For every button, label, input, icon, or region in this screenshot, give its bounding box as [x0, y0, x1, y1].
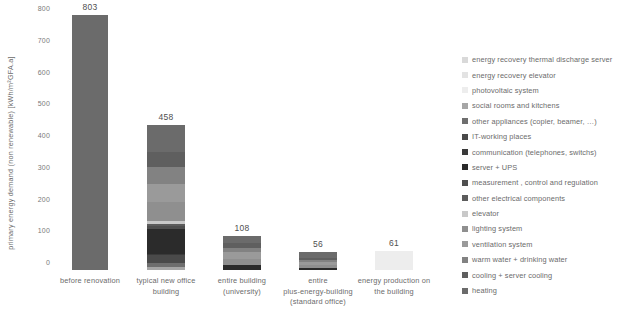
legend-item-label: ventilation system — [472, 240, 533, 249]
x-axis-label-line: before renovation — [52, 276, 128, 287]
bar-group: 61 — [356, 16, 432, 270]
x-axis-label-line: the building — [356, 287, 432, 298]
x-axis-label-line: (university) — [204, 287, 280, 298]
legend-swatch-icon — [462, 103, 468, 109]
legend-item-label: social rooms and kitchens — [472, 101, 560, 110]
bar-group: 108 — [204, 16, 280, 270]
legend-item[interactable]: cooling + server cooling — [462, 267, 634, 282]
bar-group: 56 — [280, 16, 356, 270]
bar-value-label: 803 — [83, 2, 98, 12]
y-axis-tick-label: 0 — [16, 259, 50, 266]
x-axis-label-line: typical new office — [128, 276, 204, 287]
bar-segment — [147, 267, 185, 270]
x-axis-category-label: before renovation — [52, 276, 128, 287]
legend-item[interactable]: heating — [462, 283, 634, 298]
stacked-bar[interactable] — [147, 125, 185, 270]
x-axis-category-label: typical new officebuilding — [128, 276, 204, 297]
bar-value-label: 458 — [159, 112, 174, 122]
legend-swatch-icon — [462, 211, 468, 217]
bar-segment — [223, 252, 261, 259]
y-axis-tick-label: 200 — [16, 195, 50, 202]
legend-item-label: elevator — [472, 209, 499, 218]
bar-segment — [72, 15, 108, 270]
x-axis-label-line: (standard office) — [280, 297, 356, 308]
legend-swatch-icon — [462, 72, 468, 78]
x-axis-labels: before renovationtypical new officebuild… — [52, 276, 432, 322]
y-axis-tick-label: 300 — [16, 163, 50, 170]
legend-swatch-icon — [462, 164, 468, 170]
legend-swatch-icon — [462, 195, 468, 201]
legend-item[interactable]: ventilation system — [462, 237, 634, 252]
legend-item[interactable]: server + UPS — [462, 160, 634, 175]
legend-item[interactable]: lighting system — [462, 221, 634, 236]
y-axis-ticks: 0100200300400500600700800 — [16, 8, 50, 270]
x-axis-label-line: building — [128, 287, 204, 298]
legend-item-label: communication (telephones, switchs) — [472, 148, 597, 157]
stacked-bar[interactable] — [72, 15, 108, 270]
legend-swatch-icon — [462, 149, 468, 155]
legend-item-label: photovoltaic system — [472, 86, 539, 95]
legend-item-label: server + UPS — [472, 163, 517, 172]
bar-segment — [299, 268, 337, 270]
legend-swatch-icon — [462, 57, 468, 63]
legend-swatch-icon — [462, 226, 468, 232]
legend-item-label: IT-working places — [472, 132, 531, 141]
y-axis-tick-label: 700 — [16, 36, 50, 43]
chart-container: primary energy demand (non renewable) [k… — [0, 0, 634, 323]
legend-item-label: warm water + drinking water — [472, 255, 567, 264]
legend-item[interactable]: energy recovery elevator — [462, 67, 634, 82]
stacked-bar[interactable] — [375, 251, 413, 270]
bar-segment — [147, 184, 185, 202]
legend-swatch-icon — [462, 180, 468, 186]
legend-item[interactable]: photovoltaic system — [462, 83, 634, 98]
legend-item-label: energy recovery elevator — [472, 71, 556, 80]
legend-item-label: other appliances (copier, beamer, …) — [472, 117, 597, 126]
y-axis-tick-label: 100 — [16, 227, 50, 234]
bar-group: 458 — [128, 16, 204, 270]
chart-legend: energy recovery thermal discharge server… — [462, 52, 634, 298]
x-axis-category-label: entireplus-energy-building(standard offi… — [280, 276, 356, 308]
bar-segment — [223, 236, 261, 244]
legend-item-label: lighting system — [472, 224, 522, 233]
legend-item[interactable]: social rooms and kitchens — [462, 98, 634, 113]
legend-item-label: measurement , control and regulation — [472, 178, 598, 187]
stacked-bar[interactable] — [299, 252, 337, 270]
legend-item-label: heating — [472, 286, 497, 295]
x-axis-label-line: entire — [280, 276, 356, 287]
bar-segment — [147, 152, 185, 167]
legend-swatch-icon — [462, 118, 468, 124]
y-axis-tick-label: 600 — [16, 68, 50, 75]
bar-segment — [147, 202, 185, 222]
bar-segment — [223, 265, 261, 270]
legend-swatch-icon — [462, 241, 468, 247]
plot-area: 8034581085661 — [52, 16, 432, 270]
bar-value-label: 56 — [313, 239, 323, 249]
legend-swatch-icon — [462, 257, 468, 263]
legend-swatch-icon — [462, 272, 468, 278]
legend-item[interactable]: warm water + drinking water — [462, 252, 634, 267]
legend-item-label: cooling + server cooling — [472, 271, 552, 280]
x-axis-label-line: energy production on — [356, 276, 432, 287]
y-axis-tick-label: 400 — [16, 132, 50, 139]
y-axis-tick-label: 800 — [16, 5, 50, 12]
bar-value-label: 108 — [235, 223, 250, 233]
legend-item-label: energy recovery thermal discharge server — [472, 55, 612, 64]
legend-item[interactable]: IT-working places — [462, 129, 634, 144]
bar-value-label: 61 — [389, 238, 399, 248]
stacked-bar[interactable] — [223, 236, 261, 270]
legend-item[interactable]: energy recovery thermal discharge server — [462, 52, 634, 67]
legend-item-label: other electrical components — [472, 194, 565, 203]
bar-segment — [147, 229, 185, 254]
legend-item[interactable]: other electrical components — [462, 191, 634, 206]
bar-segment — [147, 255, 185, 262]
legend-swatch-icon — [462, 87, 468, 93]
legend-item[interactable]: other appliances (copier, beamer, …) — [462, 114, 634, 129]
legend-item[interactable]: communication (telephones, switchs) — [462, 144, 634, 159]
x-axis-label-line: plus-energy-building — [280, 287, 356, 298]
legend-swatch-icon — [462, 134, 468, 140]
bar-segment — [147, 125, 185, 152]
legend-item[interactable]: elevator — [462, 206, 634, 221]
legend-swatch-icon — [462, 288, 468, 294]
legend-item[interactable]: measurement , control and regulation — [462, 175, 634, 190]
x-axis-category-label: energy production onthe building — [356, 276, 432, 297]
